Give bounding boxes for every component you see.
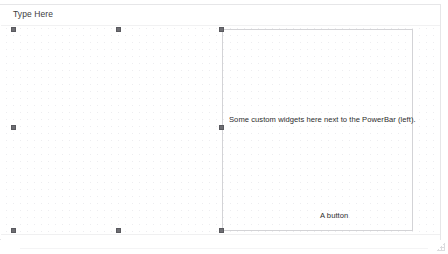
custom-widget-frame[interactable] (222, 29, 413, 231)
selection-handle-widget-top-left[interactable] (219, 27, 224, 32)
menubar-type-here-placeholder[interactable]: Type Here (13, 9, 53, 19)
custom-widget-description-label: Some custom widgets here next to the Pow… (229, 115, 411, 124)
form-designer-screen: Type Here Some custom widgets here next … (0, 0, 448, 254)
selection-handle-left-top-middle[interactable] (116, 27, 121, 32)
selection-handle-left-bottom[interactable] (11, 228, 16, 233)
selection-handle-left-top[interactable] (11, 27, 16, 32)
a-button[interactable]: A button (320, 211, 348, 220)
window-bottom-divider (20, 248, 428, 249)
selection-handle-left-middle[interactable] (11, 125, 16, 130)
selection-handle-widget-bottom-left[interactable] (219, 228, 224, 233)
selection-handle-widget-middle-left[interactable] (219, 125, 224, 130)
resize-grip-icon[interactable] (436, 242, 445, 251)
selection-handle-left-bottom-middle[interactable] (116, 228, 121, 233)
menubar[interactable]: Type Here (1, 5, 440, 26)
